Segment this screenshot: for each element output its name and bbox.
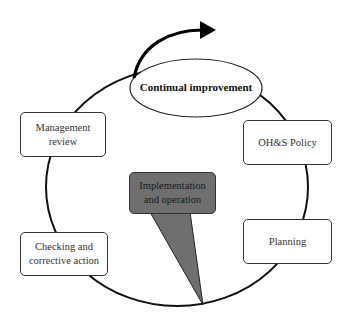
checking-label: Checking and corrective action bbox=[22, 240, 106, 268]
implementation-node: Implementation and operation bbox=[129, 172, 216, 214]
arrowhead-icon bbox=[200, 21, 216, 39]
ohs-policy-node: OH&S Policy bbox=[243, 120, 332, 165]
implementation-label: Implementation and operation bbox=[133, 179, 213, 207]
continual-improvement-label: Continual improvement bbox=[131, 81, 261, 93]
planning-label: Planning bbox=[269, 235, 306, 249]
planning-node: Planning bbox=[243, 219, 332, 264]
implementation-callout-pointer bbox=[150, 212, 203, 305]
ohs-policy-label: OH&S Policy bbox=[258, 136, 317, 150]
management-review-node: Management review bbox=[20, 112, 106, 157]
management-review-label: Management review bbox=[28, 121, 98, 149]
checking-node: Checking and corrective action bbox=[20, 232, 108, 276]
